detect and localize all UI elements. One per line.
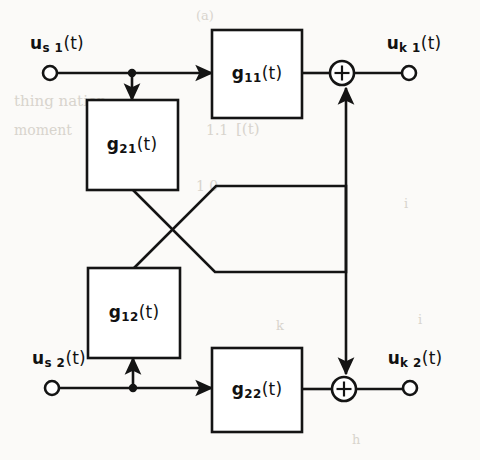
output-label-uk1: uk 1(t) — [387, 33, 442, 55]
block-diagram-figure: (a)thing nationmomenteinerge1.1[(t)1 0ik… — [0, 0, 480, 460]
input-terminal-us2 — [45, 381, 59, 395]
input-label-us1: us 1(t) — [30, 33, 84, 55]
input-label-us2: us 2(t) — [32, 348, 86, 370]
output-label-uk2: uk 2(t) — [388, 348, 443, 370]
block-label-g11: g11(t) — [232, 63, 282, 85]
output-terminal-uk2 — [403, 381, 417, 395]
block-label-g12: g12(t) — [109, 302, 159, 324]
output-terminal-uk1 — [402, 66, 416, 80]
block-label-g21: g21(t) — [107, 134, 157, 156]
input-terminal-us1 — [43, 66, 57, 80]
block-label-g22: g22(t) — [232, 379, 282, 401]
